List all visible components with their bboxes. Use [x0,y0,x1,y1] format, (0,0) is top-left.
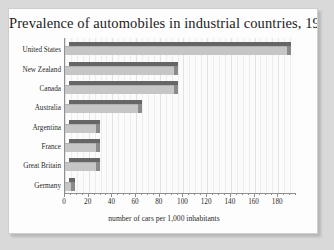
x-tick [230,193,231,197]
x-tick [159,193,160,197]
x-tick [182,193,183,197]
gridline [243,38,244,193]
x-tick [200,193,201,195]
x-tick [105,193,106,195]
gridline [201,38,202,193]
x-tick [70,193,71,195]
page-background: Prevalence of automobiles in industrial … [0,0,334,250]
x-tick [271,193,272,195]
bar-top-face [69,139,100,143]
y-axis-label: New Zealand [22,66,61,75]
bar-front-face [65,162,96,171]
bar-france [65,139,100,152]
gridline [225,38,226,193]
x-tick [236,193,237,195]
y-axis-labels: United StatesNew ZealandCanadaAustraliaA… [9,38,64,193]
x-tick [88,193,89,197]
x-tick-label: 120 [194,198,218,206]
y-axis-label: United States [22,46,61,55]
x-tick [254,193,255,197]
bar-canada [65,81,178,94]
x-tick-label: 40 [99,198,123,206]
bar-front-face [65,46,287,55]
y-axis-label: Australia [35,104,61,113]
gridline [249,38,250,193]
gridline [207,38,208,193]
gridline [272,38,273,193]
y-axis-label: Canada [39,85,61,94]
bar-top-face [69,81,178,85]
bar-top-face [69,120,100,124]
chart-card: Prevalence of automobiles in industrial … [8,8,318,234]
x-tick [259,193,260,195]
x-tick-label: 140 [218,198,242,206]
x-tick-label: 180 [265,198,289,206]
x-tick-label: 100 [170,198,194,206]
x-tick [129,193,130,195]
bar-top-face [69,100,142,104]
x-tick [147,193,148,195]
y-axis-label: Argentina [32,124,61,133]
y-axis-label: France [41,143,61,152]
bar-front-face [65,66,174,75]
bar-top-face [69,158,100,162]
y-axis-label: Germany [34,182,61,191]
bar-top-face [69,62,178,66]
x-tick-label: 60 [123,198,147,206]
x-tick-label: 20 [76,198,100,206]
x-tick [117,193,118,195]
x-tick [224,193,225,195]
x-tick [153,193,154,195]
gridline [278,38,279,193]
x-tick [76,193,77,195]
x-tick [188,193,189,195]
x-tick [64,193,65,197]
bar-front-face [65,143,96,152]
x-tick [242,193,243,195]
x-tick [212,193,213,195]
bar-front-face [65,124,96,133]
x-tick [165,193,166,195]
gridline [213,38,214,193]
x-tick [171,193,172,195]
x-tick [206,193,207,197]
x-tick [283,193,284,195]
gridline [290,38,291,193]
x-tick-label: 160 [242,198,266,206]
x-tick [194,193,195,195]
x-tick [177,193,178,195]
bar-great-britain [65,158,100,171]
x-tick [135,193,136,197]
bar-australia [65,100,142,113]
x-tick [100,193,101,195]
bar-new-zealand [65,62,178,75]
gridline [266,38,267,193]
x-tick [141,193,142,195]
y-axis-label: Great Britain [23,162,61,171]
bar-germany [65,178,75,191]
x-tick [218,193,219,195]
bar-argentina [65,120,100,133]
x-axis-title: number of cars per 1,000 inhabitants [9,214,318,223]
x-tick [94,193,95,195]
x-tick [265,193,266,195]
plot-area [64,38,295,193]
x-tick [295,193,296,195]
chart-area: United StatesNew ZealandCanadaAustraliaA… [9,38,318,234]
bar-united-states [65,42,291,55]
gridline [255,38,256,193]
gridline [189,38,190,193]
bar-front-face [65,85,174,94]
x-tick [277,193,278,197]
chart-title: Prevalence of automobiles in industrial … [9,15,318,32]
gridline [284,38,285,193]
gridline [237,38,238,193]
bar-top-face [69,42,291,46]
gridline [195,38,196,193]
x-tick [111,193,112,197]
bar-front-face [65,104,138,113]
plot-inner [65,38,295,193]
gridline [260,38,261,193]
gridline [231,38,232,193]
bar-top-face [69,178,75,182]
